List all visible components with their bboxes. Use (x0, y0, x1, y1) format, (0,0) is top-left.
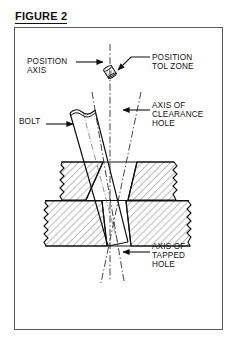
figure-page: FIGURE 2 (0, 0, 239, 347)
technical-drawing (0, 0, 239, 347)
label-axis-tapped-hole: AXIS OF TAPPED HOLE (152, 242, 185, 270)
label-position-tol-zone: POSITION TOL ZONE (152, 53, 194, 71)
leader-position-tol-zone (118, 57, 150, 70)
label-axis-clearance-hole: AXIS OF CLEARANCE HOLE (152, 101, 203, 129)
upper-plate (60, 162, 177, 200)
position-tol-zone-marker (103, 65, 117, 80)
label-position-axis: POSITION AXIS (27, 57, 67, 75)
label-bolt: BOLT (19, 117, 40, 126)
